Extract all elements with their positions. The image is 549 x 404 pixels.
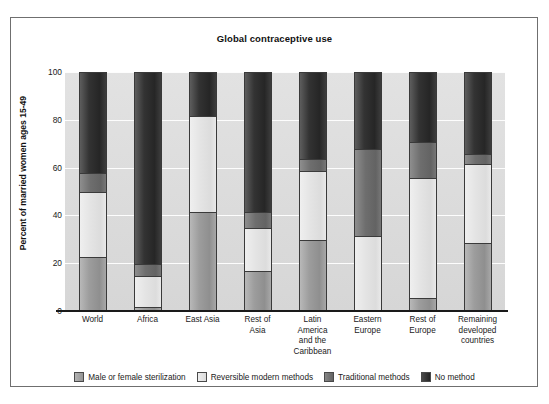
bar-column[interactable]: [134, 72, 162, 311]
bar-segment[interactable]: [135, 264, 161, 277]
bar-segment[interactable]: [80, 73, 106, 174]
x-tick-label-line: Remaining: [445, 315, 511, 326]
bar-segment[interactable]: [410, 73, 436, 143]
bar-segment[interactable]: [300, 159, 326, 172]
bar-column[interactable]: [299, 72, 327, 311]
stacked-bar[interactable]: [189, 72, 217, 311]
chart-figure: Global contraceptive use Percent of marr…: [0, 0, 549, 404]
stacked-bar[interactable]: [134, 72, 162, 311]
x-axis-labels: WorldAfricaEast AsiaRest ofAsiaLatinAmer…: [65, 315, 505, 377]
chart-legend: Male or female sterilizationReversible m…: [10, 372, 539, 382]
bar-segment[interactable]: [245, 212, 271, 230]
legend-item[interactable]: Reversible modern methods: [197, 372, 313, 382]
bar-segment[interactable]: [80, 193, 106, 259]
bar-segment[interactable]: [355, 236, 381, 311]
legend-label: No method: [435, 373, 475, 382]
bar-column[interactable]: [409, 72, 437, 311]
y-tick-label: 100: [18, 67, 62, 77]
bar-segment[interactable]: [410, 178, 436, 299]
stacked-bar[interactable]: [464, 72, 492, 311]
bar-column[interactable]: [464, 72, 492, 311]
bar-series-group: [65, 72, 505, 311]
bar-segment[interactable]: [80, 257, 106, 312]
y-tick-label: 20: [18, 258, 62, 268]
bar-segment[interactable]: [190, 212, 216, 312]
legend-label: Reversible modern methods: [211, 373, 313, 382]
bar-segment[interactable]: [135, 276, 161, 308]
chart-title: Global contraceptive use: [0, 33, 549, 44]
bar-segment[interactable]: [465, 154, 491, 165]
bar-segment[interactable]: [300, 171, 326, 241]
x-tick-label: Remainingdevelopedcountries: [445, 315, 511, 347]
bar-column[interactable]: [354, 72, 382, 311]
y-tick-label: 40: [18, 210, 62, 220]
bar-segment[interactable]: [80, 173, 106, 193]
y-tick-label: 60: [18, 163, 62, 173]
bar-segment[interactable]: [410, 142, 436, 179]
swatch-reversible-icon: [197, 372, 207, 382]
stacked-bar[interactable]: [79, 72, 107, 311]
x-tick-label-line: countries: [445, 336, 511, 347]
bar-segment[interactable]: [355, 149, 381, 236]
bar-segment[interactable]: [190, 116, 216, 213]
bar-segment[interactable]: [245, 73, 271, 213]
bar-segment[interactable]: [245, 271, 271, 312]
bar-column[interactable]: [79, 72, 107, 311]
x-axis-line: [56, 310, 508, 312]
bar-segment[interactable]: [465, 243, 491, 312]
bar-segment[interactable]: [190, 73, 216, 117]
bar-segment[interactable]: [355, 73, 381, 150]
bar-segment[interactable]: [465, 164, 491, 244]
bar-segment[interactable]: [465, 73, 491, 155]
bar-column[interactable]: [244, 72, 272, 311]
y-tick-label: 80: [18, 115, 62, 125]
legend-label: Male or female sterilization: [88, 373, 185, 382]
bar-segment[interactable]: [300, 73, 326, 160]
legend-item[interactable]: No method: [421, 372, 475, 382]
bar-segment[interactable]: [245, 228, 271, 272]
bar-segment[interactable]: [135, 73, 161, 265]
stacked-bar[interactable]: [244, 72, 272, 311]
x-tick-label-line: developed: [445, 326, 511, 337]
y-axis-title: Percent of married women ages 15-49: [18, 88, 28, 258]
stacked-bar[interactable]: [299, 72, 327, 311]
swatch-traditional-icon: [324, 372, 334, 382]
stacked-bar[interactable]: [354, 72, 382, 311]
stacked-bar[interactable]: [409, 72, 437, 311]
x-tick-label-line: and the: [280, 336, 346, 347]
swatch-sterilization-icon: [74, 372, 84, 382]
swatch-no-method-icon: [421, 372, 431, 382]
legend-item[interactable]: Male or female sterilization: [74, 372, 185, 382]
bar-column[interactable]: [189, 72, 217, 311]
x-tick-label-line: Caribbean: [280, 347, 346, 358]
legend-label: Traditional methods: [338, 373, 410, 382]
bar-segment[interactable]: [300, 240, 326, 312]
legend-item[interactable]: Traditional methods: [324, 372, 410, 382]
